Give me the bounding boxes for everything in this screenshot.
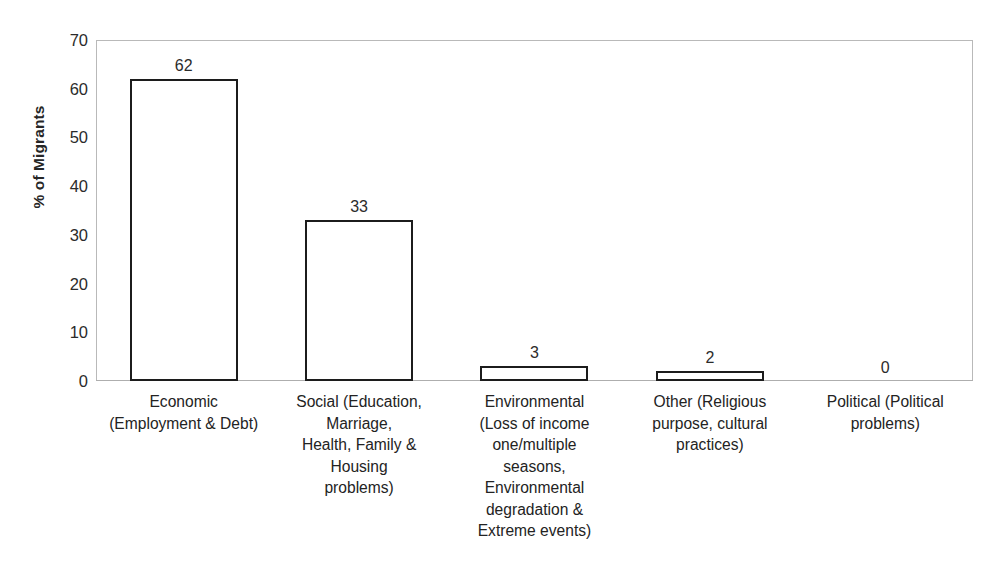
bar-value-label: 3	[489, 344, 579, 362]
bars-layer: 6233320	[96, 40, 973, 381]
y-tick-label: 70	[52, 31, 88, 50]
bar-group: 33	[271, 40, 446, 381]
category-label: Other (Religiouspurpose, culturalpractic…	[612, 391, 807, 456]
category-label: Environmental(Loss of incomeone/multiple…	[437, 391, 632, 542]
bar[interactable]	[130, 79, 238, 381]
category-label-line: Economic	[86, 391, 281, 413]
bar[interactable]	[656, 371, 764, 381]
y-tick-label: 0	[52, 372, 88, 391]
category-label-line: Extreme events)	[437, 520, 632, 542]
category-label-line: (Employment & Debt)	[86, 413, 281, 435]
y-tick-label: 20	[52, 274, 88, 293]
category-label-line: Social (Education,	[261, 391, 456, 413]
bar-value-label: 33	[314, 198, 404, 216]
y-tick-label: 60	[52, 79, 88, 98]
bar-value-label: 2	[665, 349, 755, 367]
category-label-line: Health, Family &	[261, 434, 456, 456]
category-label-line: degradation &	[437, 499, 632, 521]
category-label-line: purpose, cultural	[612, 413, 807, 435]
y-axis-title: % of Migrants	[30, 72, 48, 242]
bar-group: 3	[447, 40, 622, 381]
category-label-line: Environmental	[437, 391, 632, 413]
bar-value-label: 62	[139, 57, 229, 75]
bar-group: 0	[798, 40, 973, 381]
category-label-line: practices)	[612, 434, 807, 456]
category-label-line: Other (Religious	[612, 391, 807, 413]
bar-group: 62	[96, 40, 271, 381]
category-label: Social (Education,Marriage,Health, Famil…	[261, 391, 456, 499]
bar[interactable]	[305, 220, 413, 381]
category-label-line: Housing	[261, 456, 456, 478]
category-label-line: seasons,	[437, 456, 632, 478]
category-label-line: problems)	[261, 477, 456, 499]
category-label-line: Environmental	[437, 477, 632, 499]
y-tick-label: 10	[52, 323, 88, 342]
x-axis-category-labels: Economic(Employment & Debt)Social (Educa…	[96, 391, 973, 587]
y-tick-label: 40	[52, 177, 88, 196]
category-label-line: problems)	[788, 413, 983, 435]
y-tick-label: 30	[52, 225, 88, 244]
category-label-line: (Loss of income	[437, 413, 632, 435]
category-label: Political (Politicalproblems)	[788, 391, 983, 434]
category-label-line: one/multiple	[437, 434, 632, 456]
bar-group: 2	[622, 40, 797, 381]
bar[interactable]	[480, 366, 588, 381]
y-axis-tick-labels: 706050403020100	[52, 40, 88, 381]
bar-chart-figure: % of Migrants 706050403020100 6233320 Ec…	[0, 0, 1008, 587]
category-label-line: Political (Political	[788, 391, 983, 413]
y-tick-label: 50	[52, 128, 88, 147]
category-label-line: Marriage,	[261, 413, 456, 435]
bar-value-label: 0	[840, 359, 930, 377]
category-label: Economic(Employment & Debt)	[86, 391, 281, 434]
